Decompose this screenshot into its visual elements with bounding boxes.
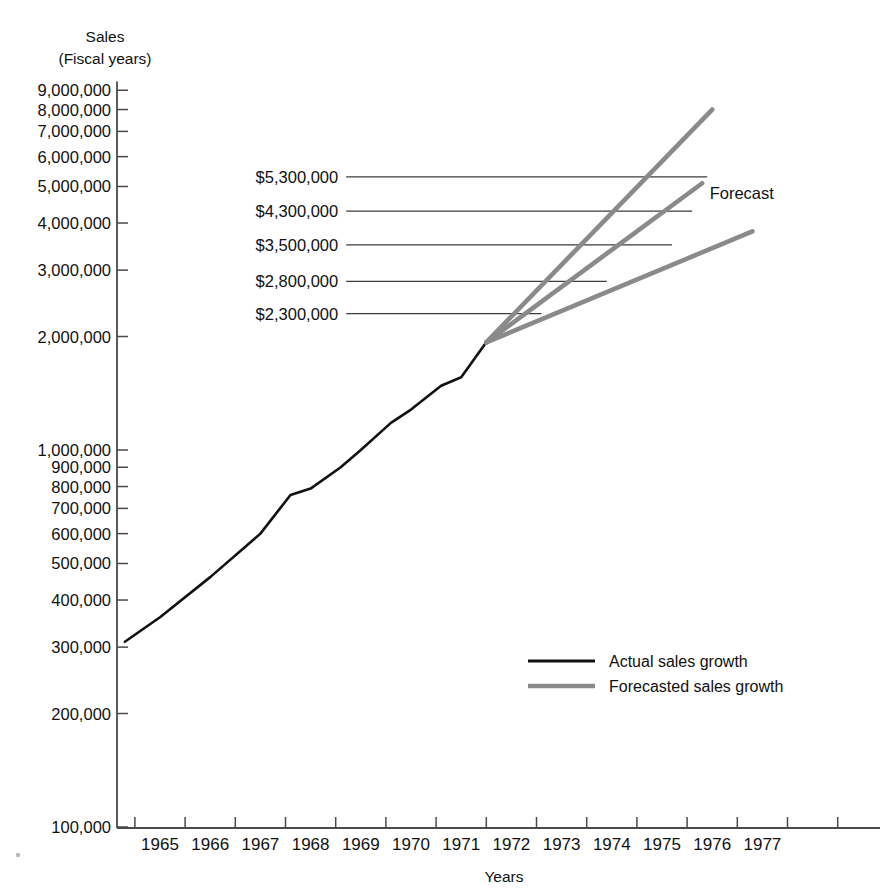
- x-axis-ticks: 1965196619671968196919701971197219731974…: [135, 817, 838, 854]
- x-tick-label: 1967: [241, 835, 279, 854]
- annotation-label: $2,800,000: [256, 272, 339, 290]
- y-tick-label: 6,000,000: [38, 148, 111, 166]
- y-tick-label: 4,000,000: [38, 214, 111, 232]
- y-tick-label: 8,000,000: [38, 101, 111, 119]
- y-tick-label: 400,000: [51, 591, 111, 609]
- annotation-group: $5,300,000$4,300,000$3,500,000$2,800,000…: [256, 168, 708, 323]
- forecast-callout-label: Forecast: [710, 184, 775, 202]
- x-tick-label: 1975: [643, 835, 681, 854]
- x-tick-label: 1969: [342, 835, 380, 854]
- y-tick-label: 2,000,000: [38, 328, 111, 346]
- y-axis-title-line2: (Fiscal years): [58, 50, 151, 67]
- y-tick-label: 800,000: [51, 478, 111, 496]
- x-tick-label: 1972: [492, 835, 530, 854]
- series-group: [125, 110, 753, 642]
- y-axis-title-group: Sales (Fiscal years): [58, 28, 151, 67]
- chart-legend: Actual sales growthForecasted sales grow…: [528, 653, 783, 695]
- y-tick-label: 700,000: [51, 499, 111, 517]
- y-tick-label: 3,000,000: [38, 261, 111, 279]
- forecast-sales-line: [486, 110, 712, 343]
- annotation-label: $5,300,000: [256, 168, 339, 186]
- annotation-label: $3,500,000: [256, 236, 339, 254]
- y-tick-label: 7,000,000: [38, 122, 111, 140]
- y-tick-label: 1,000,000: [38, 441, 111, 459]
- legend-label: Actual sales growth: [609, 653, 748, 670]
- y-tick-label: 600,000: [51, 525, 111, 543]
- x-tick-label: 1970: [392, 835, 430, 854]
- x-tick-label: 1971: [442, 835, 480, 854]
- annotation-label: $4,300,000: [256, 202, 339, 220]
- x-tick-label: 1977: [743, 835, 781, 854]
- x-tick-label: 1976: [693, 835, 731, 854]
- y-axis-title-line1: Sales: [86, 28, 125, 45]
- y-tick-label: 5,000,000: [38, 177, 111, 195]
- annotation-label: $2,300,000: [256, 305, 339, 323]
- x-axis-title: Years: [484, 868, 523, 885]
- forecast-sales-line: [486, 231, 752, 342]
- y-tick-label: 900,000: [51, 458, 111, 476]
- x-tick-label: 1973: [543, 835, 581, 854]
- x-tick-label: 1968: [292, 835, 330, 854]
- y-axis-ticks: 9,000,0008,000,0007,000,0006,000,0005,00…: [38, 81, 128, 836]
- x-tick-label: 1966: [191, 835, 229, 854]
- legend-label: Forecasted sales growth: [609, 678, 783, 695]
- y-tick-label: 100,000: [51, 818, 111, 836]
- chart-canvas: Sales (Fiscal years) 9,000,0008,000,0007…: [0, 0, 889, 893]
- page-speck-mark: [16, 853, 20, 857]
- sales-forecast-chart: Sales (Fiscal years) 9,000,0008,000,0007…: [0, 0, 889, 893]
- x-tick-label: 1974: [593, 835, 631, 854]
- forecast-sales-line: [486, 183, 702, 342]
- y-tick-label: 300,000: [51, 638, 111, 656]
- actual-sales-line: [125, 342, 486, 641]
- y-tick-label: 200,000: [51, 705, 111, 723]
- y-tick-label: 9,000,000: [38, 81, 111, 99]
- y-tick-label: 500,000: [51, 554, 111, 572]
- x-tick-label: 1965: [141, 835, 179, 854]
